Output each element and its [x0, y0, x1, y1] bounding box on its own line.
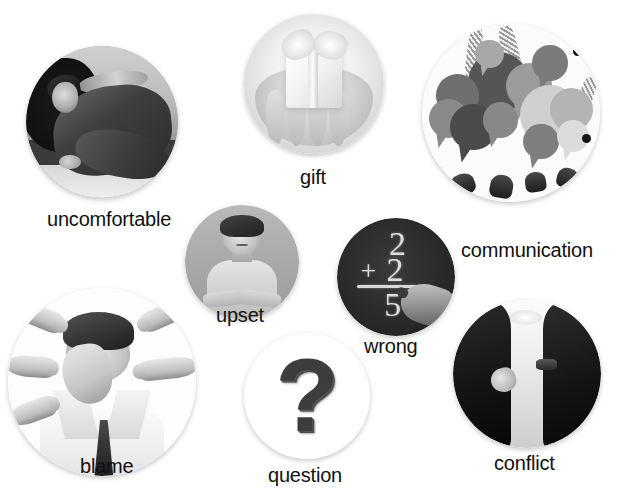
- communication-hand-2: [488, 173, 515, 200]
- label-upset: upset: [216, 304, 264, 327]
- photo-blame: [8, 288, 196, 476]
- photo-circle-gift[interactable]: [244, 14, 384, 154]
- conflict-cuff: [536, 359, 557, 369]
- speech-bubble-8: [483, 102, 519, 138]
- conflict-ceiling-light: [509, 310, 542, 325]
- question-mark-glyph: ?: [275, 343, 339, 447]
- speech-bubble-11: [475, 40, 503, 68]
- label-uncomfortable: uncomfortable: [47, 208, 171, 231]
- chalk-number-bottom: 2: [387, 253, 404, 287]
- gift-finger-1: [266, 90, 284, 146]
- photo-question: ?: [244, 333, 370, 459]
- photo-gift: [244, 14, 384, 154]
- photo-conflict: [453, 300, 601, 448]
- label-question: question: [268, 464, 342, 487]
- communication-dot-top: [573, 47, 582, 56]
- gift-ribbon: [308, 52, 318, 108]
- photo-upset: [185, 205, 299, 319]
- photo-circle-question[interactable]: ?: [244, 333, 370, 459]
- communication-dot-bottom: [582, 134, 591, 143]
- pointing-finger-4: [140, 293, 196, 333]
- photo-circle-communication[interactable]: [422, 24, 600, 202]
- label-blame: blame: [80, 455, 133, 478]
- photo-wrong: 2 + 2 5: [337, 218, 455, 336]
- speech-bubble-10: [523, 124, 559, 160]
- pointing-finger-2: [8, 354, 54, 378]
- uncomfortable-hand: [59, 155, 80, 169]
- photo-uncomfortable: [26, 46, 178, 198]
- photo-circle-uncomfortable[interactable]: [26, 46, 178, 198]
- communication-hand-4: [555, 166, 580, 190]
- pointing-finger-1: [8, 296, 64, 335]
- photo-circle-wrong[interactable]: 2 + 2 5: [337, 218, 455, 336]
- label-gift: gift: [300, 166, 326, 189]
- speech-bubble-4: [532, 45, 568, 81]
- gift-bow: [283, 31, 345, 59]
- photo-circle-conflict[interactable]: [453, 300, 601, 448]
- pointing-finger-5: [139, 355, 196, 381]
- conflict-person-right: [543, 303, 601, 448]
- upset-eye-left: [229, 234, 234, 237]
- photo-communication: [422, 24, 600, 202]
- upset-eye-right: [247, 234, 252, 237]
- communication-hand-1: [448, 170, 478, 198]
- upset-mouth: [236, 244, 247, 246]
- chalk-operator: +: [361, 257, 377, 285]
- upset-hair: [220, 215, 263, 237]
- label-communication: communication: [461, 239, 593, 262]
- vocabulary-collage-board: uncomfortable gift: [0, 0, 627, 493]
- uncomfortable-head: [52, 82, 78, 112]
- label-conflict: conflict: [494, 452, 555, 475]
- photo-circle-upset[interactable]: [185, 205, 299, 319]
- photo-circle-blame[interactable]: [8, 288, 196, 476]
- label-wrong: wrong: [364, 335, 417, 358]
- communication-hand-3: [524, 170, 548, 192]
